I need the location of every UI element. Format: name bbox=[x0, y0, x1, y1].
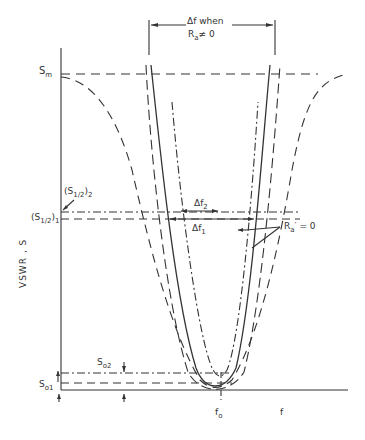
df1-main: Δf bbox=[192, 223, 201, 233]
df1-label: Δf1 bbox=[192, 224, 206, 236]
curve-dashed-narrow bbox=[146, 65, 280, 389]
s-half-2-sub: 1/2 bbox=[73, 191, 84, 199]
df2-sub: 2 bbox=[203, 203, 207, 211]
ra-leader-2 bbox=[252, 227, 280, 248]
so1-sub: o1 bbox=[45, 384, 54, 392]
sm-label: Sm bbox=[39, 66, 52, 79]
f0-sub: o bbox=[218, 412, 222, 420]
df2-main: Δf bbox=[194, 198, 203, 208]
so2-label: So2 bbox=[97, 358, 111, 370]
ra-zero-label: Ra′ = 0 bbox=[284, 222, 316, 234]
df-when-label: Δf when bbox=[187, 17, 224, 26]
y-axis-label: VSWR , S bbox=[18, 239, 28, 288]
df2-label: Δf2 bbox=[194, 199, 208, 211]
f0-label: fo bbox=[215, 408, 222, 420]
s-half-2-pre: (S bbox=[64, 186, 73, 196]
so1-label: So1 bbox=[39, 380, 53, 392]
so2-sub: o2 bbox=[103, 362, 112, 370]
s-half-1-label: (S1/2)1 bbox=[31, 213, 59, 225]
sm-sub: m bbox=[45, 71, 52, 79]
s-half-1-sub2: 1 bbox=[55, 217, 59, 225]
df1-sub: 1 bbox=[201, 228, 205, 236]
df-when-text: Δf when bbox=[187, 16, 224, 26]
ra-zero-post: ′ = 0 bbox=[295, 221, 316, 231]
ra-leader-1 bbox=[246, 227, 280, 230]
s-half-2-sub2: 2 bbox=[88, 191, 92, 199]
ra-not-zero-label: Ra≠ 0 bbox=[188, 30, 215, 42]
f-label: f bbox=[280, 408, 283, 417]
s-half-2-label: (S1/2)2 bbox=[64, 187, 92, 199]
ra-post: ≠ 0 bbox=[199, 29, 215, 39]
curve-dash-dot bbox=[172, 102, 258, 376]
s-half-1-sub: 1/2 bbox=[40, 217, 51, 225]
s-half-1-pre: (S bbox=[31, 212, 40, 222]
